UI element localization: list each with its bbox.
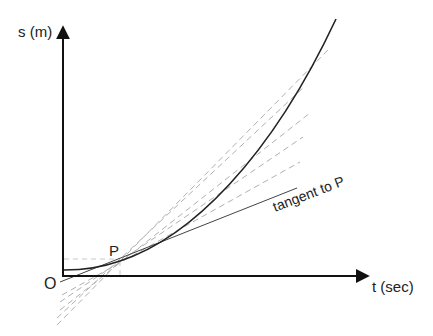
secant-lines [57,48,330,325]
x-axis-label: t (sec) [372,278,414,295]
secant-line-1 [57,48,330,325]
secant-line-4 [60,137,303,302]
position-time-diagram: s (m) t (sec) O P tangent to P [0,0,433,336]
origin-label: O [44,275,56,292]
position-curve [64,19,336,270]
point-p-label: P [109,242,119,259]
y-axis-label: s (m) [18,23,52,40]
